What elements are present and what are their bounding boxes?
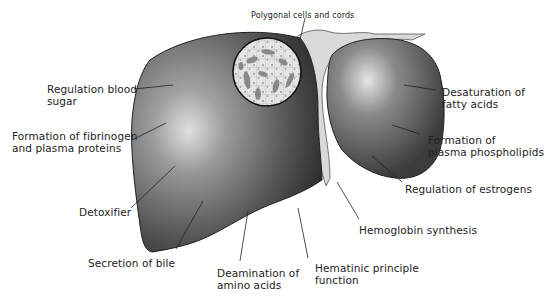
label-deamination: Deamination of amino acids	[217, 267, 299, 291]
right-lobe	[327, 39, 444, 179]
label-polygonal-cells: Polygonal cells and cords	[251, 11, 354, 20]
label-secretion-of-bile: Secretion of bile	[88, 257, 175, 269]
label-desaturation-fatty-acids: Desaturation of fatty acids	[442, 86, 525, 110]
label-regulation-of-estrogens: Regulation of estrogens	[405, 183, 532, 195]
label-regulation-blood-sugar: Regulation blood sugar	[47, 83, 137, 107]
label-hematinic: Hematinic principle function	[315, 262, 419, 286]
label-fibrinogen: Formation of fibrinogen and plasma prote…	[12, 130, 137, 154]
label-detoxifier: Detoxifier	[79, 206, 131, 218]
polygonal-cells-inset	[233, 38, 301, 106]
label-hemoglobin-synthesis: Hemoglobin synthesis	[359, 224, 477, 236]
label-plasma-phospholipids: Formation of plasma phospholipids	[428, 134, 544, 158]
